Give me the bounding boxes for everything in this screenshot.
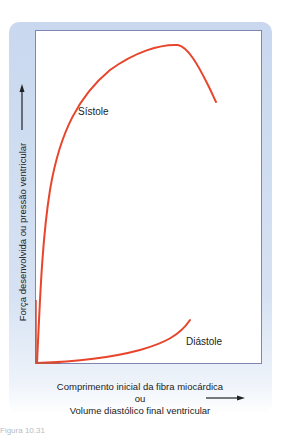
y-axis-label: Força desenvolvida ou pressão ventricula… (17, 143, 28, 321)
figure-caption: Figura 10.31 (0, 426, 281, 435)
systole-label: Sístole (78, 106, 109, 117)
x-axis-label: Comprimento inicial da fibra miocárdica … (30, 381, 250, 417)
diastole-curve (37, 320, 190, 363)
diastole-label: Diástole (186, 336, 222, 347)
systole-curve (37, 45, 216, 363)
x-axis-label-line2: ou (30, 393, 250, 405)
x-axis-label-line1: Comprimento inicial da fibra miocárdica (30, 381, 250, 393)
x-axis-label-line3: Volume diastólico final ventricular (30, 405, 250, 417)
arrow-up-icon (20, 84, 25, 130)
